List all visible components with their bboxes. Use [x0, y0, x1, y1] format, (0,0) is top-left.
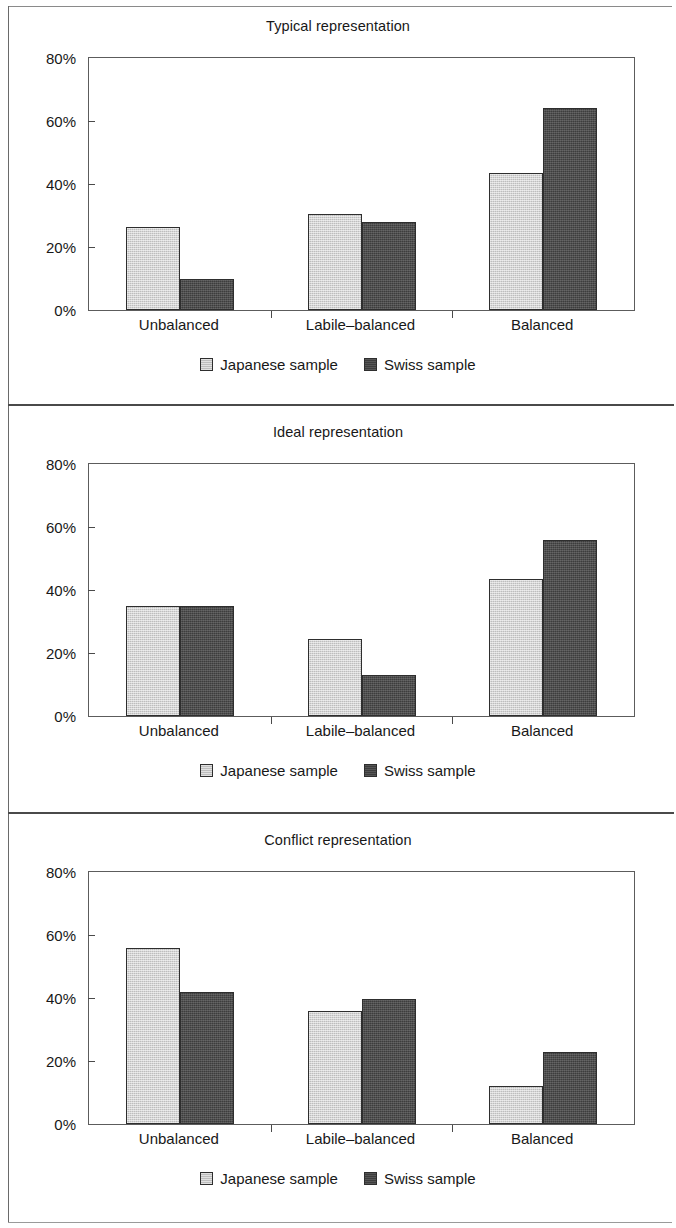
y-tick-mark [88, 527, 95, 528]
x-axis: UnbalancedLabile–balancedBalanced [88, 723, 635, 745]
y-tick-mark [88, 590, 95, 591]
legend-swatch-icon-swiss [364, 358, 377, 371]
y-tick-label: 60% [46, 520, 76, 535]
x-tick-mark [271, 717, 272, 724]
y-tick-label: 0% [54, 709, 76, 724]
x-tick-label: Labile–balanced [306, 1131, 415, 1146]
bar-swiss [543, 540, 597, 716]
legend-swatch-icon-swiss [364, 764, 377, 777]
legend-label-swiss: Swiss sample [384, 357, 476, 372]
legend: Japanese sample Swiss sample [0, 1171, 676, 1186]
bars-layer [89, 872, 634, 1124]
y-axis: 0%20%40%60%80% [24, 57, 82, 311]
chart-title: Conflict representation [0, 832, 676, 848]
y-tick-mark [88, 184, 95, 185]
x-tick-label: Balanced [511, 1131, 574, 1146]
bar-swiss [362, 222, 416, 310]
x-tick-mark [452, 717, 453, 724]
legend-swatch-icon-swiss [364, 1172, 377, 1185]
legend-swatch-icon-japanese [200, 764, 213, 777]
bar-swiss [362, 999, 416, 1124]
y-tick-label: 80% [46, 51, 76, 66]
y-tick-label: 40% [46, 991, 76, 1006]
legend: Japanese sample Swiss sample [0, 763, 676, 778]
legend-label-japanese: Japanese sample [220, 763, 338, 778]
x-axis: UnbalancedLabile–balancedBalanced [88, 317, 635, 339]
chart-title: Ideal representation [0, 424, 676, 440]
legend-swatch-icon-japanese [200, 1172, 213, 1185]
x-tick-label: Labile–balanced [306, 317, 415, 332]
x-tick-label: Labile–balanced [306, 723, 415, 738]
x-tick-label: Unbalanced [139, 1131, 219, 1146]
y-tick-label: 40% [46, 583, 76, 598]
y-tick-mark [88, 935, 95, 936]
y-tick-mark [88, 1061, 95, 1062]
y-tick-label: 20% [46, 1054, 76, 1069]
bar-swiss [362, 675, 416, 716]
y-tick-label: 60% [46, 928, 76, 943]
bar-japanese [126, 606, 180, 716]
y-tick-mark [88, 653, 95, 654]
x-tick-label: Balanced [511, 723, 574, 738]
bar-swiss [180, 279, 234, 311]
y-axis: 0%20%40%60%80% [24, 871, 82, 1125]
bar-japanese [126, 227, 180, 310]
x-tick-mark [452, 1125, 453, 1132]
y-tick-label: 20% [46, 240, 76, 255]
bar-japanese [489, 579, 543, 716]
bar-japanese [489, 173, 543, 310]
chart-title: Typical representation [0, 18, 676, 34]
bar-japanese [308, 639, 362, 716]
legend-label-swiss: Swiss sample [384, 763, 476, 778]
legend-swatch-icon-japanese [200, 358, 213, 371]
y-tick-label: 80% [46, 457, 76, 472]
legend: Japanese sample Swiss sample [0, 357, 676, 372]
x-tick-mark [452, 311, 453, 318]
figure-border-bottom [8, 1222, 672, 1223]
x-tick-label: Unbalanced [139, 317, 219, 332]
chart-panel-ideal: Ideal representation 0%20%40%60%80% Unba… [0, 406, 676, 812]
bar-swiss [543, 1052, 597, 1124]
legend-label-swiss: Swiss sample [384, 1171, 476, 1186]
legend-item-japanese: Japanese sample [200, 357, 338, 372]
y-tick-label: 40% [46, 177, 76, 192]
bars-layer [89, 58, 634, 310]
legend-label-japanese: Japanese sample [220, 1171, 338, 1186]
y-axis: 0%20%40%60%80% [24, 463, 82, 717]
y-tick-label: 0% [54, 303, 76, 318]
bar-swiss [180, 606, 234, 716]
x-tick-label: Balanced [511, 317, 574, 332]
bar-japanese [308, 214, 362, 310]
bar-swiss [543, 108, 597, 310]
x-tick-label: Unbalanced [139, 723, 219, 738]
legend-item-swiss: Swiss sample [364, 1171, 476, 1186]
y-tick-label: 0% [54, 1117, 76, 1132]
x-tick-mark [271, 1125, 272, 1132]
bar-japanese [489, 1086, 543, 1124]
chart-panel-conflict: Conflict representation 0%20%40%60%80% U… [0, 814, 676, 1220]
y-tick-label: 60% [46, 114, 76, 129]
legend-label-japanese: Japanese sample [220, 357, 338, 372]
y-tick-mark [88, 121, 95, 122]
y-tick-label: 80% [46, 865, 76, 880]
legend-item-japanese: Japanese sample [200, 1171, 338, 1186]
bar-japanese [126, 948, 180, 1124]
x-tick-mark [271, 311, 272, 318]
x-axis: UnbalancedLabile–balancedBalanced [88, 1131, 635, 1153]
bar-japanese [308, 1011, 362, 1124]
bars-layer [89, 464, 634, 716]
legend-item-swiss: Swiss sample [364, 763, 476, 778]
chart-panel-typical: Typical representation 0%20%40%60%80% Un… [0, 0, 676, 406]
legend-item-swiss: Swiss sample [364, 357, 476, 372]
y-tick-mark [88, 998, 95, 999]
y-tick-mark [88, 247, 95, 248]
legend-item-japanese: Japanese sample [200, 763, 338, 778]
figure-root: Typical representation 0%20%40%60%80% Un… [0, 0, 676, 1228]
bar-swiss [180, 992, 234, 1124]
y-tick-label: 20% [46, 646, 76, 661]
